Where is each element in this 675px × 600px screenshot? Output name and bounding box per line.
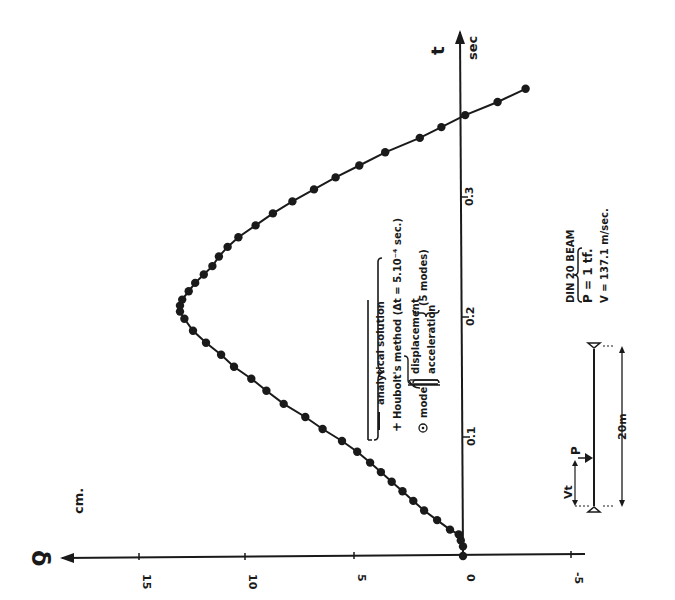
time-axis: 0.1 0.2 0.3 t sec (427, 30, 480, 556)
delta-axis-label: δ (26, 550, 54, 567)
data-point-marker (208, 262, 216, 270)
delta-tick-label: -5 (572, 572, 585, 584)
data-point-marker (202, 339, 210, 347)
load-label: P (569, 446, 583, 455)
time-axis-unit: sec (465, 36, 480, 60)
data-point-marker (377, 468, 385, 476)
data-point-marker (398, 487, 406, 495)
data-point-marker (433, 516, 441, 524)
data-point-marker (353, 448, 361, 456)
legend: analytical solution + Houbolt's method (… (368, 218, 440, 440)
beam-velocity: V = 137.1 m/sec. (599, 208, 610, 303)
time-tick-label: 0.2 (464, 307, 477, 327)
data-point-marker (217, 351, 225, 359)
data-point-marker (355, 161, 363, 169)
data-point-marker (230, 363, 238, 371)
data-point-marker (409, 497, 417, 505)
data-point-marker (251, 221, 259, 229)
data-point-marker (416, 134, 424, 142)
time-axis-label: t (427, 46, 448, 55)
data-point-marker (318, 425, 326, 433)
support-triangle-icon (588, 343, 600, 348)
data-point-marker (388, 478, 396, 486)
vt-label: Vt (562, 485, 575, 499)
data-point-marker (420, 506, 428, 514)
data-point-marker (288, 197, 296, 205)
load-arrow-icon (585, 453, 593, 463)
delta-axis-arrow-icon (60, 553, 74, 563)
legend-item-houbolt: Houbolt's method (Δt = 5.10⁻⁴ sec.) (392, 218, 403, 419)
data-point-marker (247, 375, 255, 383)
legend-item-mode: mode (418, 387, 429, 418)
data-point-marker (280, 400, 288, 408)
data-point-marker (381, 148, 389, 156)
time-tick-label: 0.1 (465, 427, 478, 447)
legend-mode-acceleration: acceleration (426, 305, 437, 374)
support-triangle-icon (588, 507, 600, 512)
data-point-marker (200, 270, 208, 278)
legend-mode-displacement: displacement (410, 298, 421, 374)
data-point-marker (269, 209, 277, 217)
data-point-marker (262, 387, 270, 395)
data-point-marker (234, 233, 242, 241)
time-axis-arrow-icon (455, 30, 465, 44)
legend-mode-note: (5 modes) (418, 249, 429, 306)
data-point-marker (455, 530, 463, 538)
data-point-marker (215, 252, 223, 260)
data-point-marker (338, 437, 346, 445)
delta-tick-label: 10 (246, 574, 259, 590)
beam-load: P = 1 tf. (581, 248, 595, 303)
legend-item-analytical: analytical solution (375, 301, 386, 405)
data-point-marker (178, 295, 186, 303)
legend-plus-icon: + (390, 422, 404, 432)
data-point-marker (521, 85, 529, 93)
data-point-marker (185, 287, 193, 295)
data-point-marker (459, 552, 467, 560)
data-point-marker (191, 279, 199, 287)
delta-tick-label: 5 (355, 574, 368, 582)
delta-tick-label: 0 (464, 574, 477, 582)
data-point-marker (331, 173, 339, 181)
data-point-marker (366, 458, 374, 466)
span-label: 20m (616, 413, 629, 440)
data-point-marker (301, 413, 309, 421)
delta-axis-unit: cm. (71, 488, 86, 514)
data-point-marker (310, 185, 318, 193)
data-point-marker (189, 327, 197, 335)
data-point-marker (437, 123, 445, 131)
beam-diagram: 20m Vt P (562, 343, 629, 512)
beam-info: DIN 20 BEAM P = 1 tf. V = 137.1 m/sec. (565, 208, 610, 303)
beam-title: DIN 20 BEAM (565, 230, 576, 303)
rotated-deflection-chart: 15 10 5 0 -5 δ cm. 0.1 0.2 0.3 t sec ana… (0, 0, 675, 600)
data-point-marker (446, 525, 454, 533)
data-point-marker (461, 111, 469, 119)
delta-axis: 15 10 5 0 -5 δ cm. (26, 488, 585, 590)
data-point-marker (180, 315, 188, 323)
delta-tick-label: 15 (140, 574, 153, 589)
time-tick-label: 0.3 (463, 187, 476, 207)
data-point-marker (493, 98, 501, 106)
data-point-marker (223, 243, 231, 251)
